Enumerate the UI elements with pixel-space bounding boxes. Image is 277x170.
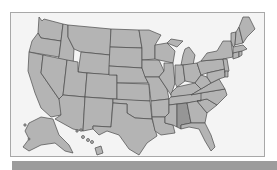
state-wisconsin[interactable] [155,43,175,63]
us-map [11,13,266,158]
island-aleutian-2 [28,138,30,140]
state-delaware[interactable] [225,71,228,77]
state-new-york[interactable] [201,41,233,61]
island-hawaii-4 [87,139,90,142]
state-new-mexico[interactable] [83,97,113,131]
state-wyoming[interactable] [78,52,110,75]
state-michigan[interactable] [181,47,195,65]
state-arkansas[interactable] [151,99,169,117]
state-colorado[interactable] [85,73,117,99]
state-kansas[interactable] [117,83,150,101]
island-aleutian-1 [24,124,26,126]
state-north-dakota[interactable] [110,29,142,48]
island-hawaii-2 [80,129,82,131]
state-massachusetts[interactable] [233,45,247,53]
state-south-dakota[interactable] [109,47,142,68]
bottom-bar [12,161,277,170]
us-map-frame: United States [10,12,265,157]
island-hawaii-3 [82,136,85,139]
state-montana[interactable] [68,25,111,55]
state-hawaii[interactable] [95,146,103,155]
island-hawaii-1 [76,130,78,132]
state-florida[interactable] [181,123,215,151]
island-hawaii-5 [91,141,94,144]
state-washington[interactable] [38,17,63,41]
